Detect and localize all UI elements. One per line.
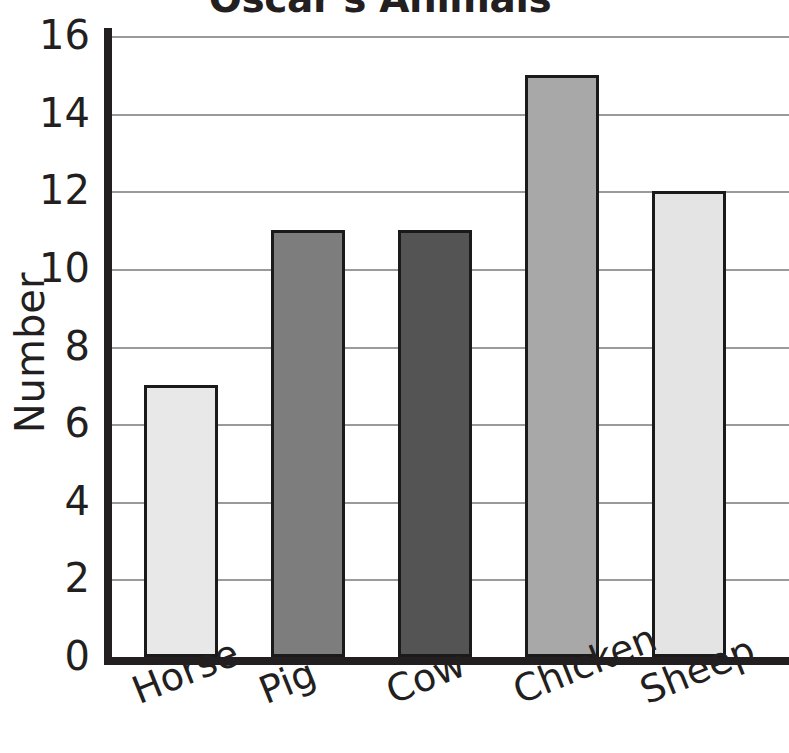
y-tick-label: 14 (39, 93, 90, 133)
chart-title: Oscar's Animals (0, 0, 760, 21)
y-tick-label: 4 (65, 481, 90, 521)
bar-sheep (652, 191, 726, 657)
y-tick-label: 6 (65, 403, 90, 443)
bar-horse (144, 385, 218, 657)
bar-chicken (525, 75, 599, 657)
y-tick-label: 0 (65, 636, 90, 676)
gridline (112, 114, 789, 116)
y-tick-label: 12 (39, 170, 90, 210)
plot-area (112, 36, 789, 657)
bar-pig (271, 230, 345, 657)
gridline (112, 36, 789, 38)
bar-cow (398, 230, 472, 657)
y-tick-label: 16 (39, 15, 90, 55)
y-axis-line (104, 28, 112, 665)
y-axis-tick-labels: 0246810121416 (0, 0, 96, 753)
y-tick-label: 8 (65, 326, 90, 366)
chart-screenshot: Oscar's Animals Number 0246810121416 Hor… (0, 0, 789, 753)
y-tick-label: 2 (65, 558, 90, 598)
y-tick-label: 10 (39, 248, 90, 288)
